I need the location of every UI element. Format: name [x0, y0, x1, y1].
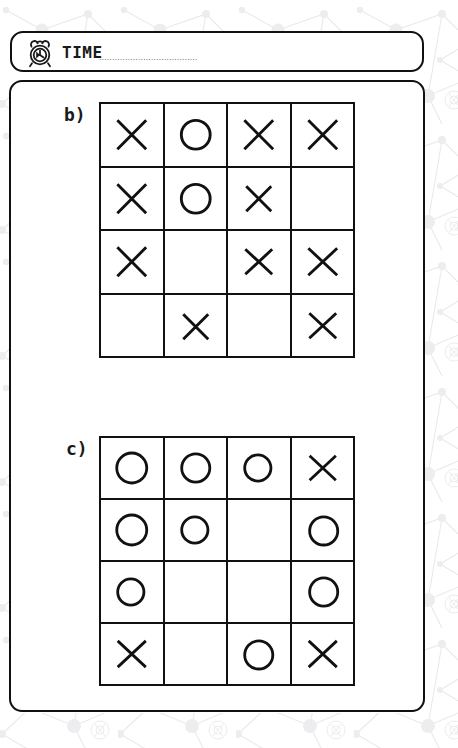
cross-mark-icon [292, 231, 354, 293]
cell-c-r1c3[interactable] [228, 438, 292, 500]
cell-c-r2c4[interactable] [292, 500, 356, 562]
cell-b-r2c3[interactable] [228, 168, 292, 232]
alarm-clock-icon [25, 38, 55, 68]
circle-mark-icon [228, 624, 290, 684]
cell-b-r2c4[interactable] [292, 168, 356, 232]
cross-mark-icon [165, 295, 227, 357]
cross-mark-icon [228, 168, 290, 230]
puzzle-c: c) [11, 416, 427, 706]
cross-mark-icon [292, 295, 354, 357]
circle-mark-icon [165, 104, 227, 166]
cell-b-r3c3[interactable] [228, 231, 292, 295]
cross-mark-icon [292, 104, 354, 166]
circle-mark-icon [165, 438, 227, 498]
cross-mark-icon [101, 168, 163, 230]
cell-c-r4c2[interactable] [165, 624, 229, 686]
cross-mark-icon [292, 624, 354, 684]
cell-b-r4c2[interactable] [165, 295, 229, 359]
cell-c-r3c3[interactable] [228, 562, 292, 624]
cell-c-r1c2[interactable] [165, 438, 229, 500]
cell-b-r4c1[interactable] [101, 295, 165, 359]
cross-mark-icon [101, 231, 163, 293]
cell-b-r1c2[interactable] [165, 104, 229, 168]
puzzle-c-label: c) [66, 439, 88, 459]
time-answer-line[interactable] [99, 58, 197, 61]
cross-mark-icon [101, 624, 163, 684]
cross-mark-icon [228, 231, 290, 293]
puzzles-panel: b) [9, 80, 425, 712]
circle-mark-icon [101, 562, 163, 622]
cell-c-r1c1[interactable] [101, 438, 165, 500]
time-bar: TIME [10, 31, 424, 72]
cell-b-r1c4[interactable] [292, 104, 356, 168]
cell-c-r3c1[interactable] [101, 562, 165, 624]
circle-mark-icon [165, 500, 227, 560]
cell-b-r4c3[interactable] [228, 295, 292, 359]
cell-c-r2c3[interactable] [228, 500, 292, 562]
cell-b-r3c1[interactable] [101, 231, 165, 295]
puzzle-c-grid [99, 436, 355, 686]
cell-c-r2c2[interactable] [165, 500, 229, 562]
cell-c-r2c1[interactable] [101, 500, 165, 562]
cell-b-r3c2[interactable] [165, 231, 229, 295]
time-label: TIME [62, 42, 103, 64]
circle-mark-icon [292, 500, 354, 560]
cell-c-r4c1[interactable] [101, 624, 165, 686]
circle-mark-icon [165, 168, 227, 230]
cell-b-r3c4[interactable] [292, 231, 356, 295]
cross-mark-icon [228, 104, 290, 166]
circle-mark-icon [101, 500, 163, 560]
cell-c-r3c2[interactable] [165, 562, 229, 624]
puzzle-b-label: b) [64, 105, 86, 125]
worksheet-page: TIME b) [0, 0, 458, 748]
circle-mark-icon [292, 562, 354, 622]
circle-mark-icon [101, 438, 163, 498]
cell-b-r1c3[interactable] [228, 104, 292, 168]
circle-mark-icon [228, 438, 290, 498]
cell-c-r1c4[interactable] [292, 438, 356, 500]
cell-c-r3c4[interactable] [292, 562, 356, 624]
cross-mark-icon [292, 438, 354, 498]
cell-c-r4c4[interactable] [292, 624, 356, 686]
cross-mark-icon [101, 104, 163, 166]
cell-b-r2c2[interactable] [165, 168, 229, 232]
puzzle-b-grid [99, 102, 355, 358]
cell-b-r2c1[interactable] [101, 168, 165, 232]
cell-b-r1c1[interactable] [101, 104, 165, 168]
puzzle-b: b) [11, 82, 427, 382]
cell-b-r4c4[interactable] [292, 295, 356, 359]
cell-c-r4c3[interactable] [228, 624, 292, 686]
